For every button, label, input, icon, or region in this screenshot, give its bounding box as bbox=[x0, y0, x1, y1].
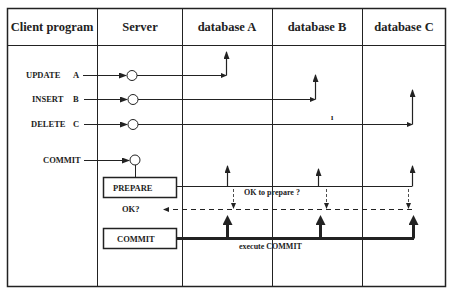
server-node-circle bbox=[128, 95, 138, 105]
column-header-client: Client program bbox=[11, 20, 94, 34]
operation-target-a: A bbox=[73, 70, 80, 80]
commit-phase: COMMIT execute COMMIT bbox=[104, 222, 415, 251]
server-node-circle bbox=[130, 155, 140, 165]
server-node-circle bbox=[127, 71, 137, 81]
operation-delete: DELETE C ı bbox=[31, 90, 413, 130]
ok-query-label: OK? bbox=[122, 204, 139, 214]
operation-label-insert: INSERT bbox=[32, 94, 64, 104]
operation-label-update: UPDATE bbox=[26, 70, 61, 80]
commit-request-label: COMMIT bbox=[43, 155, 81, 165]
operation-target-c: C bbox=[73, 119, 79, 129]
operation-label-delete: DELETE bbox=[31, 119, 66, 129]
prepare-phase: PREPARE OK to prepare ? bbox=[104, 166, 413, 198]
column-header-database-c: database C bbox=[374, 20, 433, 34]
commit-request: COMMIT bbox=[43, 155, 140, 177]
two-phase-commit-diagram: Client program Server database A databas… bbox=[0, 0, 452, 291]
column-header-database-b: database B bbox=[288, 20, 347, 34]
ok-to-prepare-label: OK to prepare ? bbox=[244, 188, 300, 197]
table-frame bbox=[8, 9, 446, 287]
execute-commit-label: execute COMMIT bbox=[239, 242, 303, 251]
operation-target-b: B bbox=[73, 94, 79, 104]
server-node-circle bbox=[128, 120, 138, 130]
operation-update: UPDATE A bbox=[26, 52, 227, 81]
prepare-label: PREPARE bbox=[113, 183, 153, 193]
column-header-server: Server bbox=[122, 20, 158, 34]
commit-box-label: COMMIT bbox=[117, 234, 155, 244]
stray-mark: ı bbox=[331, 113, 334, 122]
header-row: Client program Server database A databas… bbox=[11, 20, 434, 34]
column-header-database-a: database A bbox=[198, 20, 257, 34]
